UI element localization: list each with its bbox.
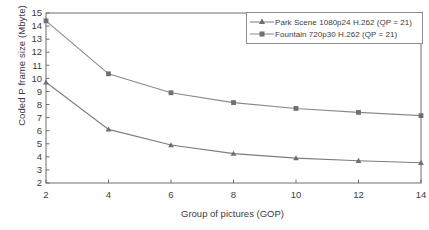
legend-item-fountain: Fountain 720p30 H.262 (QP = 21) [249, 28, 420, 40]
legend-marker-square-icon [249, 28, 275, 40]
chart-figure: Coded P frame size (Mbyte) 2345678910111… [0, 0, 429, 230]
x-tick-label: 12 [347, 190, 371, 200]
legend-marker-triangle-icon [249, 16, 275, 28]
x-tick-label: 10 [284, 190, 308, 200]
legend-item-park-scene: Park Scene 1080p24 H.262 (QP = 21) [249, 16, 420, 28]
x-tick-label: 8 [222, 190, 246, 200]
legend-label-park-scene: Park Scene 1080p24 H.262 (QP = 21) [275, 18, 412, 27]
x-tick-label: 14 [409, 190, 429, 200]
legend: Park Scene 1080p24 H.262 (QP = 21) Fount… [246, 12, 423, 44]
x-axis-title: Group of pictures (GOP) [45, 208, 420, 219]
x-tick-label: 6 [159, 190, 183, 200]
legend-label-fountain: Fountain 720p30 H.262 (QP = 21) [275, 30, 397, 39]
x-tick-label: 4 [97, 190, 121, 200]
x-tick-label: 2 [34, 190, 58, 200]
